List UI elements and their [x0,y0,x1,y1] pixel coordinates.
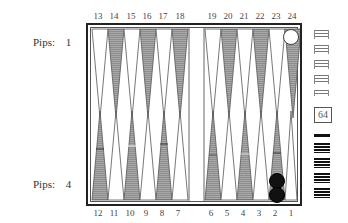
point-number: 5 [219,208,235,218]
point-18 [172,29,188,118]
point-number: 19 [204,11,220,21]
white-borne-off-stack [314,45,329,54]
board-points [88,25,300,204]
point-17 [156,29,172,118]
point-number: 12 [90,208,106,218]
point-14 [108,29,124,118]
white-checker [284,30,299,45]
point-number: 11 [106,208,122,218]
black-borne-off-tray [314,134,330,203]
point-number: 15 [123,11,139,21]
point-number: 21 [236,11,252,21]
bottom-player-pips: Pips: 4 [33,178,71,190]
point-number: 16 [139,11,155,21]
point-13 [92,29,108,118]
point-number: 1 [283,208,299,218]
point-3 [253,111,269,200]
point-19 [205,29,221,118]
black-borne-off-stack [314,173,330,183]
point-21 [237,29,253,118]
black-borne-off-stack [314,158,330,168]
black-borne-off-stack [314,134,330,137]
white-borne-off-stack [314,30,329,39]
point-5 [221,111,237,200]
point-4 [237,111,253,200]
point-number: 3 [251,208,267,218]
point-number: 6 [203,208,219,218]
white-borne-off-stack [314,75,329,84]
point-number: 2 [267,208,283,218]
point-12 [92,111,108,200]
pips-label: Pips: [33,36,63,48]
backgammon-board [86,23,302,206]
point-number: 23 [268,11,284,21]
point-number: 9 [138,208,154,218]
point-7 [172,111,188,200]
point-number: 13 [90,11,106,21]
black-checker [270,174,285,189]
point-20 [221,29,237,118]
pips-value: 4 [66,178,72,190]
point-8 [156,111,172,200]
point-11 [108,111,124,200]
doubling-cube[interactable]: 64 [314,107,332,123]
point-number: 10 [122,208,138,218]
point-number: 4 [235,208,251,218]
point-22 [253,29,269,118]
pips-label: Pips: [33,178,63,190]
point-10 [124,111,140,200]
point-number: 8 [154,208,170,218]
white-borne-off-stack [314,60,329,69]
point-23 [269,29,285,118]
point-15 [124,29,140,118]
top-player-pips: Pips: 1 [33,36,71,48]
point-number: 14 [106,11,122,21]
point-number: 24 [284,11,300,21]
black-borne-off-stack [314,188,330,198]
point-number: 22 [252,11,268,21]
point-number: 17 [155,11,171,21]
pips-value: 1 [66,36,72,48]
white-borne-off-stack [314,90,329,96]
point-number: 18 [172,11,188,21]
point-number: 7 [170,208,186,218]
black-borne-off-stack [314,143,330,153]
black-checker [270,188,285,203]
point-1 [285,111,297,200]
point-16 [140,29,156,118]
point-number: 20 [220,11,236,21]
white-borne-off-tray [314,30,329,102]
point-9 [140,111,156,200]
